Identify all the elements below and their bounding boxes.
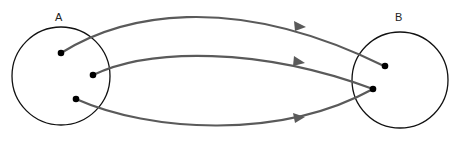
mapping-diagram: A B xyxy=(0,0,466,141)
set-b-label: B xyxy=(395,11,402,23)
point-a1 xyxy=(58,50,65,57)
point-b2 xyxy=(370,86,377,93)
arrow-a3-b2 xyxy=(76,89,373,126)
arrow-a1-b1 xyxy=(61,17,384,66)
arrowheads xyxy=(293,21,306,123)
point-b1 xyxy=(382,63,389,70)
set-b: B xyxy=(352,11,448,128)
arrow-a2-b2 xyxy=(93,56,373,89)
point-a2 xyxy=(90,72,97,79)
arrowhead-a2-b2 xyxy=(293,56,305,66)
set-b-circle xyxy=(352,32,448,128)
set-a: A xyxy=(12,11,110,125)
arrowhead-a3-b2 xyxy=(293,113,305,123)
point-a3 xyxy=(73,96,80,103)
set-a-label: A xyxy=(55,11,63,23)
arrowhead-a1-b1 xyxy=(294,21,306,31)
